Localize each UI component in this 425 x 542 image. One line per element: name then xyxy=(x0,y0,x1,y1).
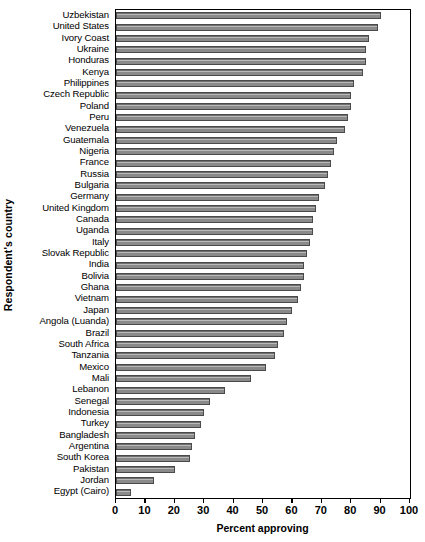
bar xyxy=(116,364,266,371)
y-axis-title-text: Respondent's country xyxy=(2,199,14,311)
bar-row xyxy=(116,475,410,486)
bar xyxy=(116,58,366,65)
bar xyxy=(116,103,351,110)
category-label: India xyxy=(16,259,112,270)
category-label: Turkey xyxy=(16,417,112,428)
x-axis-tick-label: 90 xyxy=(373,504,385,516)
category-label: Tanzania xyxy=(16,349,112,360)
category-label: Germany xyxy=(16,191,112,202)
bar-row xyxy=(116,78,410,89)
y-axis-title: Respondent's country xyxy=(0,0,16,510)
bar xyxy=(116,375,251,382)
category-label: Philippines xyxy=(16,77,112,88)
bar-row xyxy=(116,67,410,78)
bar xyxy=(116,409,204,416)
bar xyxy=(116,12,381,19)
category-label: Slovak Republic xyxy=(16,247,112,258)
category-label: Poland xyxy=(16,100,112,111)
bar-row xyxy=(116,441,410,452)
x-axis-tick xyxy=(144,498,145,503)
bar-row xyxy=(116,294,410,305)
bar-row xyxy=(116,135,410,146)
category-label: Brazil xyxy=(16,327,112,338)
bar-row xyxy=(116,214,410,225)
bar-row xyxy=(116,407,410,418)
x-axis-tick xyxy=(115,498,116,503)
category-label: Uzbekistan xyxy=(16,9,112,20)
category-label: Pakistan xyxy=(16,463,112,474)
x-axis-tick xyxy=(380,498,381,503)
bar-row xyxy=(116,44,410,55)
bar xyxy=(116,466,175,473)
category-label: Czech Republic xyxy=(16,88,112,99)
bar-row xyxy=(116,396,410,407)
bar xyxy=(116,182,325,189)
bar-row xyxy=(116,260,410,271)
bar xyxy=(116,330,284,337)
bar xyxy=(116,262,304,269)
x-axis-tick-label: 100 xyxy=(400,504,418,516)
x-axis-tick-label: 30 xyxy=(197,504,209,516)
category-label: Bulgaria xyxy=(16,179,112,190)
x-axis-tick xyxy=(262,498,263,503)
bar-row xyxy=(116,384,410,395)
x-axis-title: Percent approving xyxy=(115,522,410,534)
bar xyxy=(116,69,363,76)
bar-row xyxy=(116,452,410,463)
category-label: Uganda xyxy=(16,225,112,236)
bar xyxy=(116,273,304,280)
bar-series xyxy=(116,10,410,498)
bar-row xyxy=(116,271,410,282)
bar xyxy=(116,216,313,223)
x-axis-tick xyxy=(203,498,204,503)
bar-row xyxy=(116,101,410,112)
bar xyxy=(116,477,154,484)
x-axis-tick-label: 10 xyxy=(138,504,150,516)
bar xyxy=(116,455,190,462)
bar-row xyxy=(116,203,410,214)
bar xyxy=(116,46,366,53)
category-label: United States xyxy=(16,20,112,31)
category-label: Lebanon xyxy=(16,383,112,394)
bar xyxy=(116,171,328,178)
x-axis-tick xyxy=(291,498,292,503)
bar xyxy=(116,307,292,314)
category-label: South Korea xyxy=(16,451,112,462)
category-label: Egypt (Cairo) xyxy=(16,485,112,496)
bar xyxy=(116,296,298,303)
category-label: Senegal xyxy=(16,395,112,406)
category-label: Japan xyxy=(16,304,112,315)
bar-row xyxy=(116,89,410,100)
bar-row xyxy=(116,430,410,441)
bar xyxy=(116,398,210,405)
category-label: Argentina xyxy=(16,440,112,451)
bar xyxy=(116,24,378,31)
bar xyxy=(116,284,301,291)
bar xyxy=(116,421,201,428)
category-label: Indonesia xyxy=(16,406,112,417)
x-axis-tick-label: 20 xyxy=(168,504,180,516)
bar xyxy=(116,126,345,133)
bar-row xyxy=(116,123,410,134)
category-label: Vietnam xyxy=(16,293,112,304)
bar xyxy=(116,35,369,42)
bar xyxy=(116,352,275,359)
bar-row xyxy=(116,248,410,259)
bar-row xyxy=(116,33,410,44)
x-axis: Percent approving 0102030405060708090100 xyxy=(115,498,410,542)
x-axis-tick xyxy=(321,498,322,503)
bar xyxy=(116,250,307,257)
bar-row xyxy=(116,316,410,327)
bar-row xyxy=(116,21,410,32)
bar-row xyxy=(116,157,410,168)
bar-row xyxy=(116,350,410,361)
bar-row xyxy=(116,226,410,237)
bar-row xyxy=(116,146,410,157)
bar-row xyxy=(116,55,410,66)
category-label: Ukraine xyxy=(16,43,112,54)
bar-row xyxy=(116,418,410,429)
category-label: Canada xyxy=(16,213,112,224)
category-label: Ghana xyxy=(16,281,112,292)
category-label: Peru xyxy=(16,111,112,122)
category-label: Mali xyxy=(16,372,112,383)
